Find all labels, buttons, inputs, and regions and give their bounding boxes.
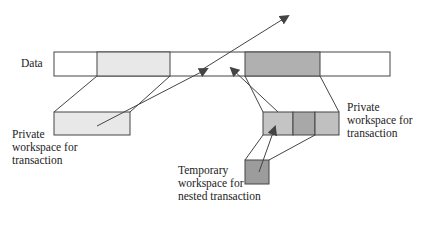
left-workspace-label: Private workspace for transaction	[12, 128, 77, 167]
commit-arrow-left	[97, 69, 207, 126]
right-workspace-label: Private workspace for transaction	[347, 101, 412, 140]
data-bar	[54, 52, 390, 76]
projection-line	[320, 76, 339, 112]
projection-line	[54, 76, 97, 112]
projection-line	[245, 135, 263, 160]
projection-line	[245, 76, 263, 112]
data-label: Data	[21, 57, 43, 70]
data-segment-light	[97, 52, 170, 76]
right-private-workspace	[263, 112, 339, 135]
temp-workspace-label: Temporary workspace for nested transacti…	[178, 164, 261, 203]
projection-line	[130, 76, 170, 112]
data-segment-dark	[245, 52, 320, 76]
projection-line	[269, 135, 315, 160]
